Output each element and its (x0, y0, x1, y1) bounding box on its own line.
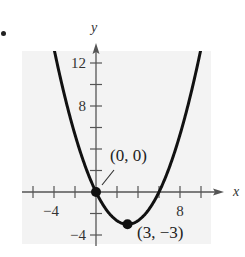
data-point (91, 187, 101, 197)
parabola-chart: xy −48128−4 (0, 0)(3, −3) (0, 0, 245, 257)
data-point (123, 219, 133, 229)
y-tick-label: 12 (71, 55, 86, 71)
y-axis-label: y (89, 20, 98, 35)
x-tick-label: −4 (43, 203, 59, 219)
y-tick-label: 8 (79, 98, 87, 114)
point-label: (0, 0) (110, 146, 147, 165)
x-axis-label: x (232, 184, 240, 199)
x-tick-label: 8 (176, 203, 184, 219)
y-tick-label: −4 (70, 227, 86, 243)
point-label: (3, −3) (137, 223, 183, 242)
